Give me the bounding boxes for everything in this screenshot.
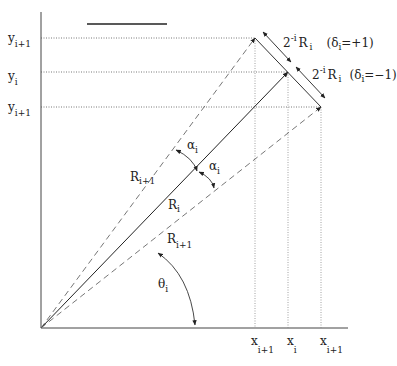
y-label-bottom: yi+1 [7,100,31,118]
y-label-mid: yi [7,69,18,87]
x-label-mid: xi [287,334,297,355]
cordic-rotation-diagram: yi+1 yi yi+1 xi+1 xi xi+1 Ri+1 Ri Ri+1 α… [0,0,397,366]
label-alpha-lower: αi [209,159,220,176]
label-alpha-upper: αi [187,138,198,155]
label-r-upper: Ri+1 [130,170,155,186]
label-theta: θi [158,277,168,294]
y-label-top: yi+1 [7,31,31,49]
label-segment-lower: 2-iRi(δi=−1) [312,65,397,84]
label-segment-upper: 2-iRi(δi=+1) [283,33,374,52]
alpha-upper-arc [176,150,197,171]
label-r-lower: Ri+1 [167,232,192,250]
vector-r-lower [41,107,321,328]
label-r-main: Ri [168,198,180,214]
horizontal-projections [41,38,321,107]
x-label-right: xi+1 [320,334,343,355]
alpha-lower-arc [199,172,214,188]
x-label-left: xi+1 [251,334,274,355]
